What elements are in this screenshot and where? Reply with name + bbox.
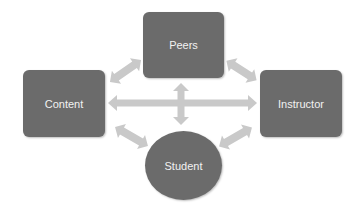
arrow-content-student — [111, 120, 152, 153]
arrow-peers-instructor — [222, 54, 261, 87]
interaction-diagram: Peers Content Instructor Student — [0, 0, 359, 208]
arrow-instructor-student — [215, 121, 256, 154]
node-instructor: Instructor — [260, 70, 342, 137]
node-student-label: Student — [165, 160, 203, 172]
node-peers-label: Peers — [169, 39, 198, 51]
node-instructor-label: Instructor — [278, 98, 324, 110]
node-content-label: Content — [45, 98, 84, 110]
node-student: Student — [145, 131, 222, 200]
node-peers: Peers — [143, 12, 224, 78]
arrow-content-peers — [105, 54, 145, 89]
node-content: Content — [23, 70, 105, 137]
